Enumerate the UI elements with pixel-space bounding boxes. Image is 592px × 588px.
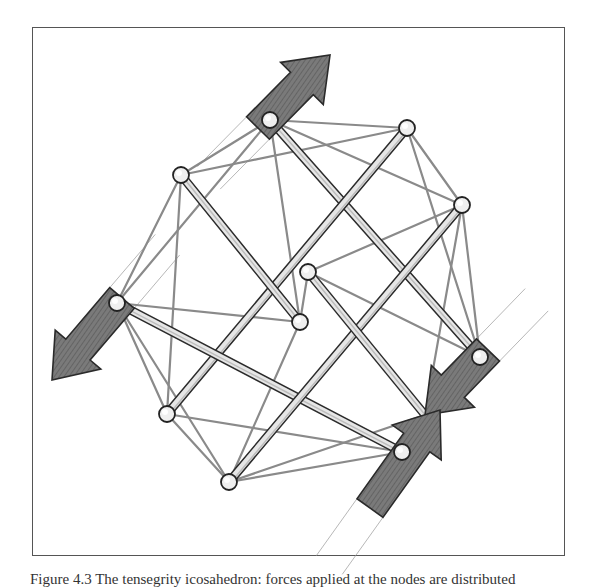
node-n4 xyxy=(454,197,470,213)
strut xyxy=(181,175,301,323)
node-n1 xyxy=(262,112,278,128)
node-n10 xyxy=(394,444,410,460)
strut xyxy=(308,272,426,416)
node-n9 xyxy=(159,406,175,422)
node-n5 xyxy=(300,264,316,280)
node-n8 xyxy=(472,349,488,365)
cable xyxy=(117,120,270,303)
node-n2 xyxy=(399,120,415,136)
node-n7 xyxy=(109,295,125,311)
cable xyxy=(270,120,462,205)
cable xyxy=(167,175,181,414)
node-n6 xyxy=(292,314,308,330)
cable xyxy=(270,120,407,128)
cable xyxy=(407,128,480,357)
cable xyxy=(229,322,300,482)
force-arrow-lower-left xyxy=(357,410,441,517)
force-arrow-top xyxy=(247,55,330,139)
cable xyxy=(167,414,229,482)
node-n3 xyxy=(173,167,189,183)
node-n11 xyxy=(221,474,237,490)
figure-caption: Figure 4.3 The tensegrity icosahedron: f… xyxy=(30,570,570,588)
